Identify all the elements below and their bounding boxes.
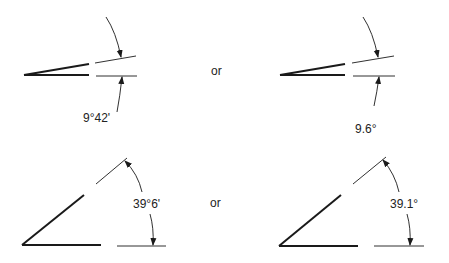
angle-label-dms-small: 9°42' [83, 111, 110, 125]
figure-small-angle-dms [24, 17, 137, 112]
or-separator-bottom: or [210, 196, 221, 210]
angle-label-decimal-large: 39.1° [390, 197, 418, 211]
angle-label-dms-large: 39°6' [133, 197, 160, 211]
angle-label-decimal-small: 9.6° [355, 122, 376, 136]
angle-dimension-diagram [0, 0, 449, 263]
figure-small-angle-decimal [280, 17, 395, 106]
or-separator-top: or [211, 64, 222, 78]
